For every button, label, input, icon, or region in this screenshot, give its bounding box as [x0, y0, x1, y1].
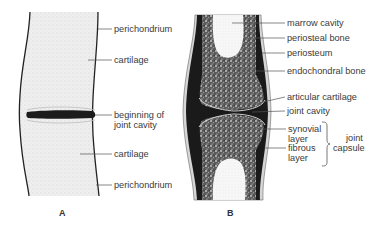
label-perichondrium-top: perichondrium: [114, 24, 172, 34]
label-joint-cavity-a: joint cavity: [114, 120, 157, 130]
label-capsule: capsule: [333, 143, 365, 153]
panel-letter-b: B: [227, 208, 234, 218]
label-endochondral-bone: endochondral bone: [287, 66, 366, 76]
label-joint-cavity-b: joint cavity: [287, 106, 330, 116]
panel-a-illustration: [19, 12, 99, 196]
label-beginning-of: beginning of: [114, 110, 164, 120]
label-joint: joint: [346, 133, 363, 143]
panel-b-illustration: [183, 15, 271, 200]
joint-capsule-brace: [322, 122, 330, 166]
beginning-of-joint-cavity-shape: [26, 110, 95, 118]
label-periosteum: periosteum: [287, 48, 332, 58]
label-cartilage-top: cartilage: [114, 55, 149, 65]
panel-letter-a: A: [59, 208, 66, 218]
label-marrow-cavity: marrow cavity: [287, 18, 344, 28]
label-periosteal-bone: periosteal bone: [287, 33, 350, 43]
label-fibrous-layer: layer: [288, 153, 308, 163]
label-cartilage-bottom: cartilage: [114, 149, 149, 159]
label-perichondrium-bottom: perichondrium: [114, 180, 172, 190]
label-synovial: synovial: [288, 124, 321, 134]
label-fibrous: fibrous: [288, 143, 316, 153]
label-articular-cartilage: articular cartilage: [287, 92, 357, 102]
